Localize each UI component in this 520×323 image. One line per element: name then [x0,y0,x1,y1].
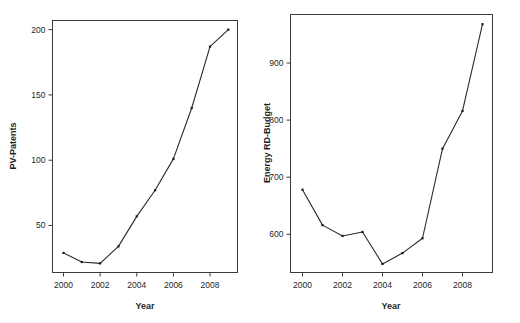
y-tick-label: 900 [269,58,283,68]
data-point-marker [154,189,156,191]
data-point-marker [227,29,229,31]
x-tick-label: 2008 [201,280,220,290]
data-point-marker [62,252,64,254]
y-tick-label: 100 [31,155,45,165]
data-point-marker [401,252,403,254]
x-tick-label: 2002 [333,280,352,290]
y-axis-title-left: PV-Patents [8,122,18,169]
x-tick-label: 2004 [373,280,392,290]
pv-patents-plot: 50100150200 20002002200420062008 PV-Pate… [0,0,260,323]
data-point-marker [99,262,101,264]
chart-panel-pv-patents: 50100150200 20002002200420062008 PV-Pate… [0,0,260,323]
x-tick-label: 2002 [91,280,110,290]
data-point-marker [481,23,483,25]
data-point-marker [421,237,423,239]
data-point-marker [341,235,343,237]
data-line-pv-patents [63,30,228,264]
plot-frame [291,15,493,273]
data-point-marker [461,110,463,112]
y-tick-label: 600 [269,229,283,239]
chart-panel-energy-rd-budget: 600700800900 20002002200420062008 Energy… [260,0,520,323]
plot-frame [53,21,238,273]
data-point-marker [117,245,119,247]
pv-patents-axes [53,21,238,273]
figure-canvas: 50100150200 20002002200420062008 PV-Pate… [0,0,520,323]
data-point-marker [301,189,303,191]
x-axis-ticks-right: 20002002200420062008 [293,273,472,290]
data-point-marker [381,263,383,265]
x-tick-label: 2008 [453,280,472,290]
x-tick-label: 2000 [54,280,73,290]
data-point-marker [441,148,443,150]
energy-rd-budget-axes [291,15,493,273]
x-tick-label: 2006 [164,280,183,290]
x-axis-title-left: Year [135,301,155,311]
data-point-marker [321,224,323,226]
data-line-energy-rd-budget [303,24,483,264]
y-axis-ticks-left: 50100150200 [31,25,52,231]
x-tick-label: 2006 [413,280,432,290]
x-tick-label: 2004 [127,280,146,290]
data-point-marker [209,46,211,48]
data-point-marker [172,158,174,160]
data-point-marker [191,107,193,109]
y-axis-ticks-right: 600700800900 [269,58,290,239]
y-tick-label: 50 [36,220,46,230]
data-point-marker [81,261,83,263]
y-tick-label: 150 [31,90,45,100]
x-axis-title-right: Year [381,301,401,311]
energy-rd-budget-plot: 600700800900 20002002200420062008 Energy… [260,0,520,323]
y-axis-title-right: Energy RD-Budget [262,103,272,183]
x-tick-label: 2000 [293,280,312,290]
data-point-marker [136,215,138,217]
x-axis-ticks-left: 20002002200420062008 [54,273,220,290]
data-point-marker [361,231,363,233]
y-tick-label: 200 [31,25,45,35]
